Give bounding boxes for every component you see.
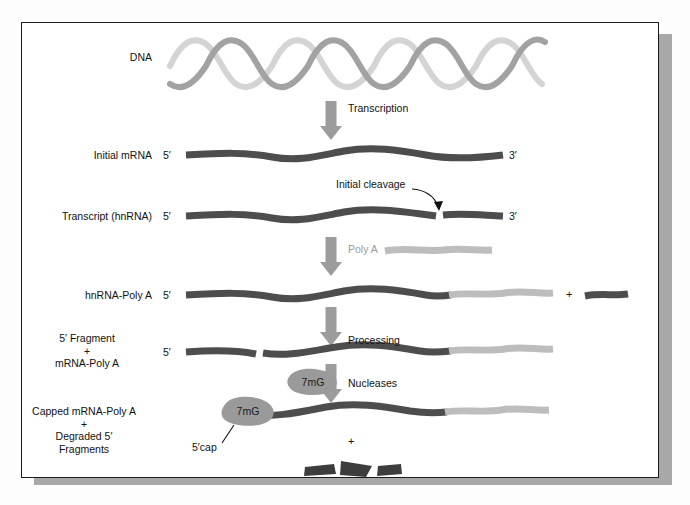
dna-double-helix: [170, 40, 545, 88]
strand-capped-polya-tail: [445, 409, 549, 412]
strand-initial-mrna: [186, 149, 503, 159]
cap-label-7mg-reagent: 7mG: [290, 374, 336, 390]
arrow-label-processing: Processing: [348, 334, 400, 347]
strand-hnrna-polya-tail: [449, 292, 553, 295]
strand-free-polya: [385, 249, 492, 251]
five-prime-transcript: 5′: [163, 210, 171, 222]
three-prime-initial-mrna: 3′: [509, 149, 517, 161]
strand-transcript-left: [186, 210, 436, 220]
row-label-fragment-mrna-polya: 5′ Fragment + mRNA-Poly A: [22, 332, 152, 370]
figure-panel: DNA Initial mRNA 5′ 3′ Transcript (hnRNA…: [0, 0, 690, 505]
row-label-capped-mrna: Capped mRNA-Poly A + Degraded 5′ Fragmen…: [10, 405, 158, 455]
arrow-poly-a: [320, 237, 342, 276]
strand-hnrna-dark: [186, 289, 451, 299]
strand-mrna-polya-tail: [449, 348, 553, 351]
strand-transcript-right: [443, 214, 503, 216]
five-prime-initial-mrna: 5′: [163, 149, 171, 161]
plus-sign-degraded: +: [348, 435, 354, 447]
row-label-initial-mrna: Initial mRNA: [12, 149, 152, 162]
degraded-fragment-2: [340, 461, 372, 477]
arrow-transcription: [320, 101, 342, 140]
row-label-transcript-hnrna: Transcript (hnRNA): [6, 210, 152, 223]
arrow-label-poly-a: Poly A: [348, 243, 378, 256]
row-label-dna: DNA: [12, 51, 152, 64]
plus-sign-hnrna-row: +: [566, 288, 572, 300]
five-cap-leader-line: [222, 425, 234, 443]
row-label-hnrna-polya: hnRNA-Poly A: [12, 289, 152, 302]
initial-cleavage-pointer: [412, 189, 443, 211]
strand-cleaved-3prime-piece: [585, 294, 628, 296]
degraded-fragment-1: [304, 464, 336, 476]
arrow-label-nucleases: Nucleases: [348, 377, 397, 390]
strand-5prime-fragment: [186, 351, 256, 354]
strand-capped-mrna-dark: [248, 405, 447, 416]
arrow-processing: [320, 307, 342, 346]
annotation-five-prime-cap: 5′cap: [192, 441, 217, 454]
arrow-label-transcription: Transcription: [348, 102, 408, 115]
five-prime-fragment: 5′: [163, 346, 171, 358]
five-prime-hnrna-polya: 5′: [163, 289, 171, 301]
annotation-initial-cleavage: Initial cleavage: [336, 178, 405, 191]
degraded-fragments: [304, 461, 402, 477]
degraded-fragment-3: [377, 464, 402, 476]
three-prime-transcript: 3′: [509, 210, 517, 222]
cap-label-7mg-mrna: 7mG: [225, 403, 271, 419]
